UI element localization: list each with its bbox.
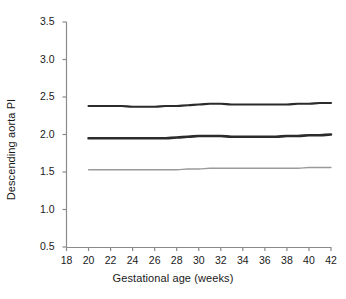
y-tick-label: 1.5 (25, 165, 55, 177)
x-tick-label: 42 (321, 254, 341, 266)
x-tick-label: 26 (145, 254, 165, 266)
x-tick-label: 18 (57, 254, 77, 266)
x-tick-label: 22 (101, 254, 121, 266)
x-tick-label: 32 (211, 254, 231, 266)
series-line (89, 103, 331, 107)
series-line (89, 135, 331, 139)
y-tick-label: 1.0 (25, 203, 55, 215)
data-series-group (89, 103, 331, 170)
x-tick-label: 34 (233, 254, 253, 266)
y-tick-label: 2.5 (25, 90, 55, 102)
y-tick-label: 3.0 (25, 53, 55, 65)
y-tick-label: 3.5 (25, 15, 55, 27)
x-tick-label: 24 (123, 254, 143, 266)
series-line (89, 168, 331, 170)
x-tick-label: 28 (167, 254, 187, 266)
x-tick-label: 38 (277, 254, 297, 266)
chart-figure: Descending aorta PI Gestational age (wee… (0, 0, 346, 299)
y-tick-label: 0.5 (25, 240, 55, 252)
y-tick-label: 2.0 (25, 128, 55, 140)
x-tick-label: 20 (79, 254, 99, 266)
x-tick-label: 36 (255, 254, 275, 266)
x-tick-label: 40 (299, 254, 319, 266)
x-tick-label: 30 (189, 254, 209, 266)
